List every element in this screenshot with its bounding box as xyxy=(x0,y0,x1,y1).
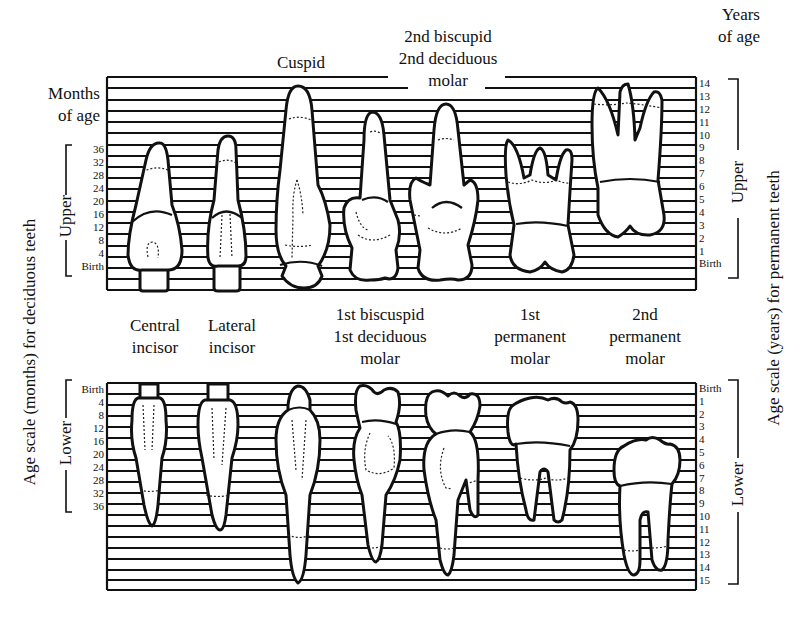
first-permanent-molar-line3: molar xyxy=(480,348,580,370)
second-biscupid-line2: 2nd deciduous xyxy=(378,48,518,70)
second-permanent-molar-line1: 2nd xyxy=(595,304,695,326)
upper-first-permanent-molar xyxy=(505,140,574,272)
lower-lateral-incisor xyxy=(198,384,238,530)
upper-years-scale: 14 13 12 11 10 9 8 7 6 5 4 3 2 1 Birth xyxy=(699,78,722,271)
scale-tick: 11 xyxy=(699,524,722,537)
scale-tick: 12 xyxy=(699,104,722,117)
scale-tick: 1 xyxy=(699,396,722,409)
right-lower-bracket-label: Lower xyxy=(728,454,748,514)
second-biscupid-label: 2nd biscupid 2nd deciduous molar xyxy=(378,26,518,92)
second-biscupid-line1: 2nd biscupid xyxy=(378,26,518,48)
months-of-age-label: Months of age xyxy=(40,83,100,127)
right-upper-bracket-label: Upper xyxy=(728,152,748,212)
first-biscuspid-line3: molar xyxy=(310,348,450,370)
first-biscuspid-line1: 1st biscuspid xyxy=(310,304,450,326)
second-permanent-molar-line2: permanent xyxy=(595,326,695,348)
upper-months-scale: 36 32 28 24 20 16 12 8 4 Birth xyxy=(72,144,104,274)
scale-tick: Birth xyxy=(72,261,104,274)
upper-first-biscuspid xyxy=(344,112,400,280)
central-incisor-line1: Central xyxy=(120,315,190,337)
scale-tick: Birth xyxy=(699,258,722,271)
years-of-age-line2: of age xyxy=(700,26,760,48)
scale-tick: 3 xyxy=(699,220,722,233)
lateral-incisor-line2: incisor xyxy=(197,337,267,359)
months-of-age-line2: of age xyxy=(40,105,100,127)
right-axis-title: Age scale (years) for permanent teeth xyxy=(764,128,784,468)
scale-tick: 14 xyxy=(699,78,722,91)
first-permanent-molar-line2: permanent xyxy=(480,326,580,348)
left-upper-bracket-label: Upper xyxy=(56,186,76,246)
cuspid-label: Cuspid xyxy=(266,52,336,74)
second-biscupid-line3: molar xyxy=(378,70,518,92)
lateral-incisor-line1: Lateral xyxy=(197,315,267,337)
scale-tick: 11 xyxy=(699,117,722,130)
scale-tick: 10 xyxy=(699,511,722,524)
lower-months-scale: Birth 4 8 12 16 20 24 28 32 36 xyxy=(72,384,104,514)
upper-lateral-incisor xyxy=(208,136,246,291)
first-permanent-molar-label: 1st permanent molar xyxy=(480,304,580,370)
upper-cuspid xyxy=(276,86,330,288)
scale-tick: 6 xyxy=(699,460,722,473)
scale-tick: 15 xyxy=(699,575,722,588)
scale-tick: 5 xyxy=(699,194,722,207)
first-biscuspid-line2: 1st deciduous xyxy=(310,326,450,348)
lower-grid xyxy=(107,383,696,590)
scale-tick: 36 xyxy=(72,501,104,514)
lateral-incisor-label: Lateral incisor xyxy=(197,315,267,359)
upper-central-incisor xyxy=(128,143,182,291)
left-axis-title: Age scale (months) for deciduous teeth xyxy=(20,182,40,522)
years-of-age-line1: Years xyxy=(700,4,760,26)
second-permanent-molar-line3: molar xyxy=(595,348,695,370)
central-incisor-label: Central incisor xyxy=(120,315,190,359)
scale-tick: Birth xyxy=(699,383,722,396)
first-biscuspid-label: 1st biscuspid 1st deciduous molar xyxy=(310,304,450,370)
scale-tick: 4 xyxy=(699,207,722,220)
upper-second-permanent-molar xyxy=(592,84,664,237)
months-of-age-line1: Months xyxy=(40,83,100,105)
lower-first-biscuspid xyxy=(354,386,401,562)
lower-second-permanent-molar xyxy=(614,438,680,576)
second-permanent-molar-label: 2nd permanent molar xyxy=(595,304,695,370)
years-of-age-label: Years of age xyxy=(700,4,760,48)
scale-tick: 5 xyxy=(699,447,722,460)
lower-cuspid xyxy=(276,386,320,583)
lower-years-scale: Birth 1 2 3 4 5 6 7 8 9 10 11 12 13 14 1… xyxy=(699,383,722,588)
first-permanent-molar-line1: 1st xyxy=(480,304,580,326)
upper-second-biscuspid xyxy=(410,104,478,280)
central-incisor-line2: incisor xyxy=(120,337,190,359)
scale-tick: 13 xyxy=(699,91,722,104)
scale-tick: 2 xyxy=(699,233,722,246)
left-lower-bracket-label: Lower xyxy=(56,413,76,473)
